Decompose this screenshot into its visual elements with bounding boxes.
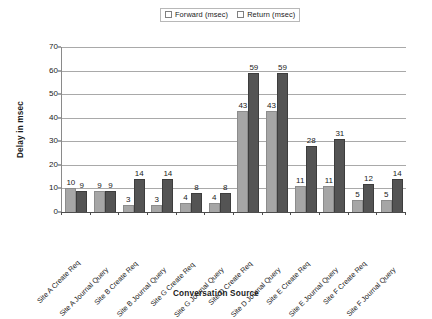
legend-label-forward: Forward (msec) [175, 10, 228, 19]
bar-return: 8 [191, 193, 202, 212]
y-axis-tick-label: 50 [49, 90, 58, 98]
x-axis-tick [61, 212, 62, 215]
x-axis-tick [204, 212, 205, 215]
y-axis-tick [58, 141, 61, 142]
x-axis-tick [90, 212, 91, 215]
bar-return: 9 [105, 191, 116, 212]
bar-group: 4359 [263, 47, 292, 212]
bar-forward: 11 [323, 186, 334, 212]
bar-forward: 5 [352, 200, 363, 212]
bar-group: 99 [91, 47, 120, 212]
bar-groups: 1099931431448484359435911281131512514 [62, 47, 406, 212]
bar-value-label: 14 [135, 169, 144, 178]
y-axis-tick-labels: 010203040506070 [38, 47, 58, 212]
bar-return: 31 [334, 139, 345, 212]
bar-forward: 4 [209, 203, 220, 212]
bar-forward: 10 [65, 188, 76, 212]
bar-value-label: 10 [66, 178, 75, 187]
y-axis-tick-label: 10 [49, 184, 58, 192]
bar-forward: 5 [381, 200, 392, 212]
y-axis-tick [58, 47, 61, 48]
bar-value-label: 3 [155, 195, 159, 204]
bar-return: 12 [363, 184, 374, 212]
bar-value-label: 11 [325, 176, 333, 185]
y-axis-tick-label: 20 [49, 161, 58, 169]
y-axis-tick-label: 30 [49, 137, 58, 145]
bar-value-label: 43 [238, 101, 247, 110]
x-axis-tick [262, 212, 263, 215]
bar-return: 9 [76, 191, 87, 212]
y-axis-tick [58, 117, 61, 118]
bar-group: 314 [119, 47, 148, 212]
bar-value-label: 3 [126, 195, 130, 204]
bar-value-label: 28 [307, 136, 316, 145]
bar-forward: 11 [295, 186, 306, 212]
bar-value-label: 9 [80, 181, 84, 190]
bar-group: 1131 [320, 47, 349, 212]
y-axis-title-text: Delay in msec [17, 101, 26, 158]
bar-return: 59 [248, 73, 259, 212]
bar-value-label: 5 [355, 190, 359, 199]
bar-forward: 9 [94, 191, 105, 212]
bar-forward: 3 [123, 205, 134, 212]
bar-group: 48 [205, 47, 234, 212]
bar-return: 14 [392, 179, 403, 212]
bar-value-label: 12 [364, 174, 373, 183]
bar-value-label: 14 [393, 169, 402, 178]
bar-value-label: 14 [163, 169, 172, 178]
x-axis-tick [348, 212, 349, 215]
legend-swatch-forward [165, 11, 172, 18]
bar-group: 48 [177, 47, 206, 212]
x-axis-tick [147, 212, 148, 215]
x-axis-tick [405, 212, 406, 215]
bar-group: 4359 [234, 47, 263, 212]
x-axis-tick [290, 212, 291, 215]
bar-return: 14 [134, 179, 145, 212]
bar-value-label: 4 [183, 193, 187, 202]
bar-forward: 4 [180, 203, 191, 212]
bar-return: 8 [220, 193, 231, 212]
y-axis-tick [58, 94, 61, 95]
bar-group: 514 [377, 47, 406, 212]
y-axis-tick-label: 70 [49, 43, 58, 51]
x-axis-tick-labels: Site A Create ReqSite A Journal QuerySit… [61, 216, 405, 286]
chart-legend: Forward (msec) Return (msec) [160, 8, 300, 22]
bar-forward: 3 [151, 205, 162, 212]
bar-value-label: 43 [267, 101, 276, 110]
x-axis-tick [118, 212, 119, 215]
plot-area: 1099931431448484359435911281131512514 [61, 47, 406, 213]
y-axis-tick [58, 212, 61, 213]
bar-value-label: 8 [223, 183, 227, 192]
bar-return: 14 [162, 179, 173, 212]
bar-forward: 43 [237, 111, 248, 212]
y-axis-title: Delay in msec [14, 47, 28, 212]
x-axis-title: Conversation Source [0, 289, 432, 298]
bar-value-label: 9 [97, 181, 101, 190]
legend-swatch-return [237, 11, 244, 18]
y-axis-tick-label: 60 [49, 67, 58, 75]
bar-group: 1128 [291, 47, 320, 212]
bar-value-label: 5 [384, 190, 388, 199]
bar-return: 28 [306, 146, 317, 212]
y-axis-tick-label: 40 [49, 114, 58, 122]
x-axis-tick [176, 212, 177, 215]
y-axis-tick [58, 188, 61, 189]
bar-value-label: 31 [335, 129, 344, 138]
y-axis-tick [58, 70, 61, 71]
bar-forward: 43 [266, 111, 277, 212]
bar-value-label: 9 [108, 181, 112, 190]
bar-value-label: 59 [278, 63, 287, 72]
bar-value-label: 59 [249, 63, 258, 72]
bar-group: 314 [148, 47, 177, 212]
x-axis-tick [319, 212, 320, 215]
legend-entry-return: Return (msec) [237, 10, 295, 19]
x-axis-tick [233, 212, 234, 215]
legend-label-return: Return (msec) [247, 10, 295, 19]
bar-value-label: 8 [194, 183, 198, 192]
bar-group: 512 [349, 47, 378, 212]
bar-return: 59 [277, 73, 288, 212]
bar-value-label: 4 [212, 193, 216, 202]
legend-entry-forward: Forward (msec) [165, 10, 228, 19]
y-axis-tick [58, 164, 61, 165]
